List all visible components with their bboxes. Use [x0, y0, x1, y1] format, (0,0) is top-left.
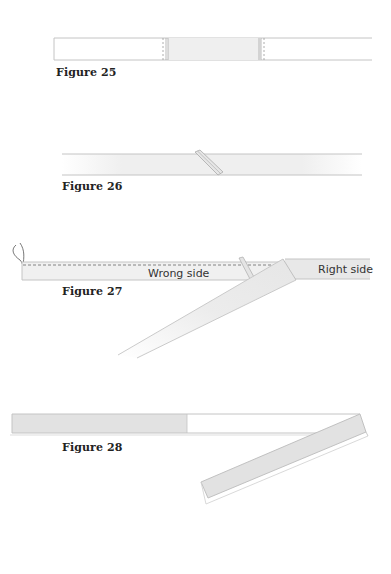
figure-28-caption: Figure 28: [62, 441, 123, 454]
figure-27-caption: Figure 27: [62, 285, 123, 298]
right-side-label: Right side: [318, 263, 373, 276]
figure-25-diagram: [54, 38, 372, 60]
figure-25-caption: Figure 25: [56, 66, 117, 79]
wrong-side-label: Wrong side: [148, 267, 210, 280]
figure-26-diagram: [62, 150, 362, 175]
figure-27-diagram: Wrong side Right side: [13, 243, 373, 358]
figure-28-diagram: [10, 414, 368, 504]
binding-diagrams: Wrong side Right side: [0, 0, 391, 574]
figure-26-caption: Figure 26: [62, 180, 123, 193]
